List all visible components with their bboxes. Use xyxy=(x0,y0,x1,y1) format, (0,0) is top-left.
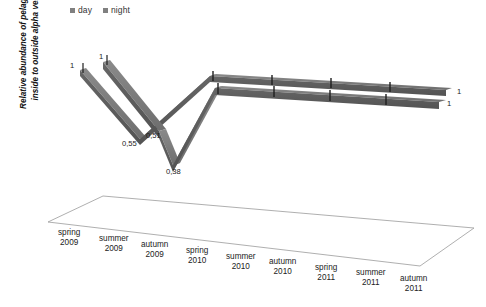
y-axis-title-line-2: inside to outside alpha ventus xyxy=(31,0,40,101)
x-axis-label-8: autumn2011 xyxy=(400,274,427,293)
x-axis-label-8-year: 2011 xyxy=(405,284,423,293)
x-axis-label-2: autumn2009 xyxy=(141,240,168,259)
x-axis-label-2-season: autumn xyxy=(141,240,168,249)
y-axis-title-line-1: Relative abundance of pelagic fish xyxy=(19,0,28,109)
x-axis-label-1-season: summer xyxy=(99,234,129,243)
legend-item-day[interactable]: day xyxy=(70,6,92,15)
x-axis-label-5-season: autumn xyxy=(269,257,296,266)
x-axis-label-0: spring2009 xyxy=(58,228,80,247)
x-axis-label-4-season: summer xyxy=(226,252,256,261)
data-label-day-autumn-2011: 1 xyxy=(457,88,461,96)
x-axis-label-7-season: summer xyxy=(356,268,386,277)
x-axis-label-8-season: autumn xyxy=(400,274,427,283)
data-label-day-autumn-2009: 0,55 xyxy=(122,140,137,148)
x-axis-label-5: autumn2010 xyxy=(269,257,296,276)
chart-legend: day night xyxy=(70,6,130,15)
x-axis-label-7: summer2011 xyxy=(356,268,386,287)
x-axis-label-2-year: 2009 xyxy=(146,250,164,259)
data-label-spring-2010-min: 0,38 xyxy=(166,168,181,176)
legend-item-night[interactable]: night xyxy=(103,6,130,15)
x-axis-label-3: spring2010 xyxy=(186,246,208,265)
x-axis-label-4: summer2010 xyxy=(226,252,256,271)
data-label-day-spring-2009: 1 xyxy=(70,62,74,70)
data-label-night-autumn-2011: 1 xyxy=(447,100,451,108)
x-axis-label-3-season: spring xyxy=(186,246,208,255)
x-axis-label-6-season: spring xyxy=(315,263,337,272)
x-axis-label-4-year: 2010 xyxy=(232,262,250,271)
y-axis-title: Relative abundance of pelagic fish insid… xyxy=(18,0,42,127)
legend-swatch-night xyxy=(103,8,108,13)
legend-label-day: day xyxy=(78,6,92,15)
x-axis-label-3-year: 2010 xyxy=(188,256,206,265)
legend-label-night: night xyxy=(111,6,130,15)
axis-floor xyxy=(48,196,474,266)
x-axis-label-1-year: 2009 xyxy=(105,244,123,253)
legend-swatch-day xyxy=(70,8,75,13)
x-axis-label-5-year: 2010 xyxy=(274,267,292,276)
x-axis-label-1: summer2009 xyxy=(99,234,129,253)
x-axis-label-0-season: spring xyxy=(58,228,80,237)
x-axis-label-0-year: 2009 xyxy=(60,238,78,247)
x-axis-label-6-year: 2011 xyxy=(317,273,335,282)
chart-container: Relative abundance of pelagic fish insid… xyxy=(0,0,486,307)
data-label-night-autumn-2009: 0,51 xyxy=(146,132,161,140)
x-axis-label-6: spring2011 xyxy=(315,263,337,282)
data-label-night-spring-2009: 1 xyxy=(99,53,103,61)
x-axis-label-7-year: 2011 xyxy=(362,278,380,287)
series-ribbon-night xyxy=(103,55,446,172)
